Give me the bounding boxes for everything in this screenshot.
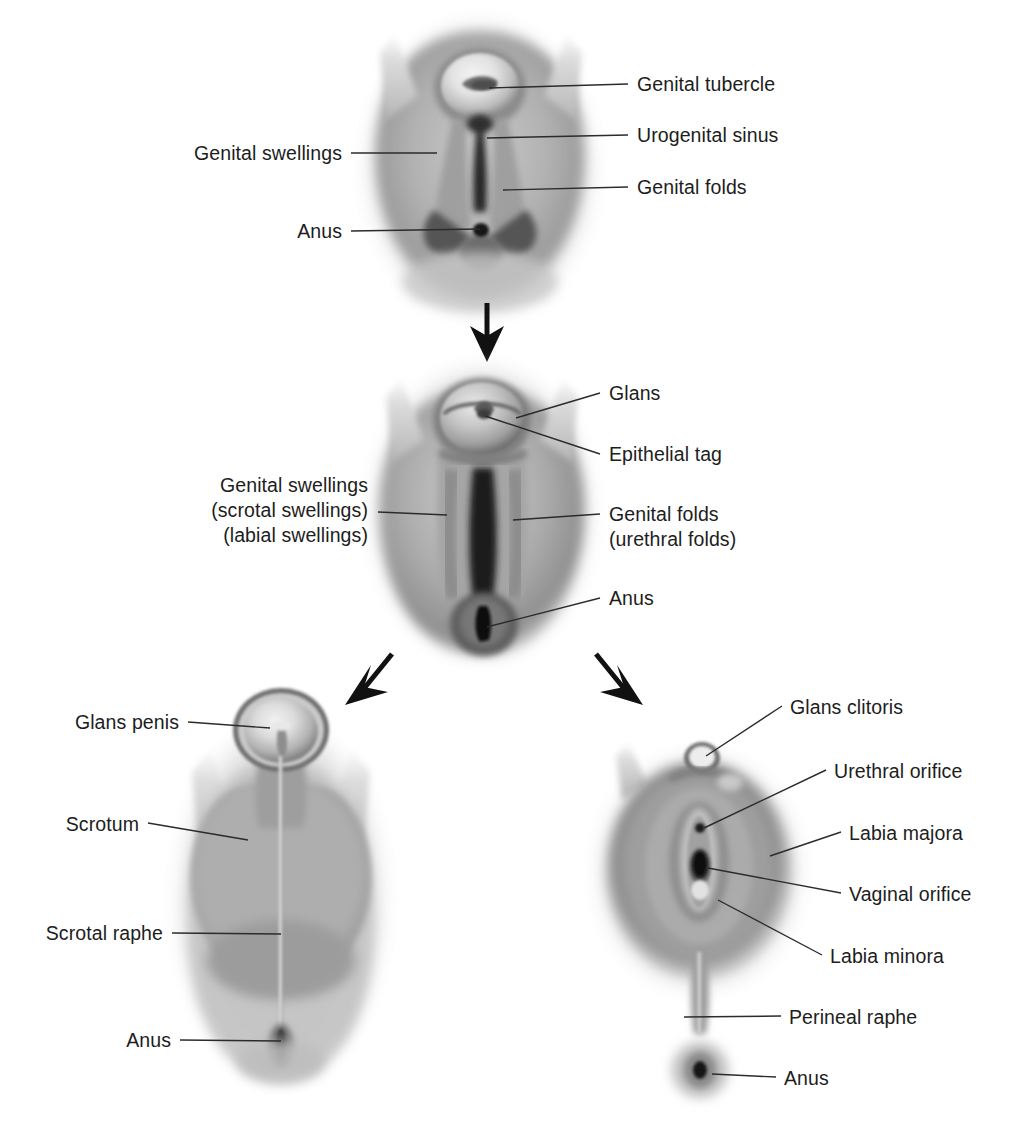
external-genitalia-development-figure: Genital tubercle Urogenital sinus Genita… <box>0 0 1013 1130</box>
leader-perineal-raphe <box>684 1016 781 1017</box>
label-anus-female: Anus <box>784 1066 829 1091</box>
label-urethral-orifice: Urethral orifice <box>834 759 962 784</box>
label-labia-minora: Labia minora <box>830 944 944 969</box>
label-glans-penis: Glans penis <box>0 710 179 735</box>
label-perineal-raphe: Perineal raphe <box>789 1005 917 1030</box>
label-genital-swellings-mid-line2: (scrotal swellings) <box>60 498 368 523</box>
leader-anus-male <box>180 1040 281 1041</box>
label-vaginal-orifice: Vaginal orifice <box>849 882 972 907</box>
label-anus-indifferent: Anus <box>30 219 342 244</box>
label-genital-swellings-mid-line3: (labial swellings) <box>60 523 368 548</box>
leader-glans-clitoris <box>706 706 782 756</box>
stage-indifferent-artwork <box>372 28 588 312</box>
label-genital-swellings-mid-line1: Genital swellings <box>60 473 368 498</box>
label-genital-swellings: Genital swellings <box>30 141 342 166</box>
label-genital-folds-urethral-line2: (urethral folds) <box>609 527 736 552</box>
label-labia-majora: Labia majora <box>849 821 963 846</box>
arrow-down-left-icon <box>345 654 392 705</box>
label-scrotal-raphe: Scrotal raphe <box>0 921 163 946</box>
label-anus-male: Anus <box>0 1028 171 1053</box>
label-epithelial-tag: Epithelial tag <box>609 442 722 467</box>
arrow-down-right-icon <box>596 654 643 705</box>
label-glans-clitoris: Glans clitoris <box>790 695 903 720</box>
label-genital-folds-urethral-line1: Genital folds <box>609 502 719 527</box>
stage-male-artwork <box>183 688 379 1084</box>
label-urogenital-sinus: Urogenital sinus <box>637 123 778 148</box>
stage-female-artwork <box>603 742 795 1098</box>
label-scrotum: Scrotum <box>0 812 139 837</box>
label-genital-folds: Genital folds <box>637 175 747 200</box>
label-genital-tubercle: Genital tubercle <box>637 72 775 97</box>
leader-scrotal-raphe <box>172 933 281 934</box>
label-anus-intermediate: Anus <box>609 586 654 611</box>
label-glans: Glans <box>609 381 660 406</box>
